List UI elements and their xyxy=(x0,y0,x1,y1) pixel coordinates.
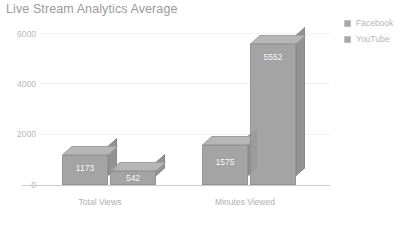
bar-youtube-minutes-viewed: 5552 xyxy=(250,44,296,185)
y-tick-2000: 2000 xyxy=(2,129,36,139)
plot-area: 1173 542 1575 5552 xyxy=(40,30,330,185)
bar-value-label: 1173 xyxy=(62,163,108,173)
gridline-6000 xyxy=(40,33,330,34)
bar-facebook-minutes-viewed: 1575 xyxy=(202,145,248,185)
chart-title: Live Stream Analytics Average xyxy=(6,2,178,16)
bar-value-label: 542 xyxy=(110,173,156,183)
legend-swatch-icon xyxy=(344,20,351,27)
bar-front-face xyxy=(250,44,296,185)
bar-value-label: 5552 xyxy=(250,52,296,62)
y-tick-4000: 4000 xyxy=(2,79,36,89)
bar-value-label: 1575 xyxy=(202,157,248,167)
category-label-minutes-viewed: Minutes Viewed xyxy=(200,197,290,207)
legend-item-facebook[interactable]: Facebook xyxy=(344,18,393,28)
legend-label-youtube: YouTube xyxy=(356,34,389,44)
bar-facebook-total-views: 1173 xyxy=(62,155,108,185)
axis-baseline xyxy=(22,185,330,186)
bar-youtube-total-views: 542 xyxy=(110,171,156,185)
category-label-total-views: Total Views xyxy=(60,197,140,207)
bar-chart: Live Stream Analytics Average 6000 4000 … xyxy=(0,0,400,230)
legend-swatch-icon xyxy=(344,36,351,43)
bar-side-face xyxy=(296,27,305,176)
legend-label-facebook: Facebook xyxy=(356,18,393,28)
legend-item-youtube[interactable]: YouTube xyxy=(344,34,393,44)
y-tick-6000: 6000 xyxy=(2,29,36,39)
chart-legend: Facebook YouTube xyxy=(344,18,393,50)
